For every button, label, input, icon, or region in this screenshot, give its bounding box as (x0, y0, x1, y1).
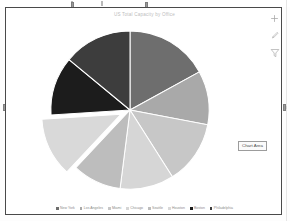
brush-icon (270, 31, 279, 40)
chart-elements-button[interactable] (267, 10, 282, 27)
chart-area-tooltip: Chart Area (238, 141, 267, 151)
legend-item[interactable]: Boston (190, 206, 205, 211)
chart-title: US Total Capacity by Office (6, 12, 283, 17)
legend-item[interactable]: Los Angeles (80, 206, 103, 211)
page-gutter (286, 0, 287, 221)
page-canvas: US Total Capacity by Office (0, 0, 290, 221)
selection-handle-right[interactable] (283, 104, 286, 111)
legend-label: New York (60, 206, 75, 211)
legend-label: Los Angeles (84, 206, 103, 211)
legend-swatch (126, 207, 129, 210)
chart-styles-button[interactable] (267, 27, 282, 44)
funnel-icon (270, 48, 280, 58)
legend-label: Houston (172, 206, 185, 211)
legend-item[interactable]: New York (56, 206, 75, 211)
doc-mark (101, 1, 103, 6)
legend-item[interactable]: Chicago (126, 206, 143, 211)
legend-swatch (190, 207, 193, 210)
legend-swatch (148, 207, 151, 210)
legend-item[interactable]: Houston (168, 206, 185, 211)
pie-chart[interactable] (38, 18, 222, 202)
legend-label: Chicago (130, 206, 143, 211)
legend-swatch (210, 207, 213, 210)
legend-swatch (80, 207, 83, 210)
legend-swatch (56, 207, 59, 210)
legend-swatch (168, 207, 171, 210)
pie-svg (38, 18, 222, 202)
legend-swatch (108, 207, 111, 210)
legend-label: Miami (112, 206, 121, 211)
chart-object-frame[interactable]: US Total Capacity by Office (5, 7, 282, 215)
chart-legend[interactable]: New YorkLos AngelesMiamiChicagoSeattleHo… (6, 206, 283, 211)
legend-item[interactable]: Philadelphia (210, 206, 233, 211)
legend-label: Boston (194, 206, 205, 211)
plot-area (6, 18, 283, 202)
legend-item[interactable]: Seattle (148, 206, 163, 211)
legend-label: Philadelphia (214, 206, 233, 211)
legend-label: Seattle (152, 206, 163, 211)
chart-buttons-group (267, 10, 283, 61)
plus-icon (270, 14, 279, 23)
chart-filters-button[interactable] (267, 44, 282, 61)
legend-item[interactable]: Miami (108, 206, 121, 211)
